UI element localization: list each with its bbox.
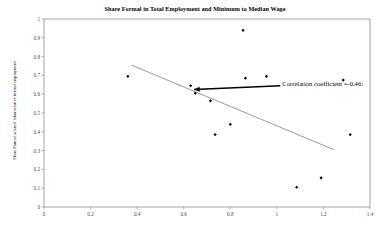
svg-text:0.1: 0.1 bbox=[34, 185, 41, 191]
svg-text:0.4: 0.4 bbox=[34, 129, 41, 135]
trendline bbox=[131, 65, 334, 150]
svg-text:0.4: 0.4 bbox=[134, 211, 141, 217]
svg-text:0.8: 0.8 bbox=[34, 54, 41, 60]
plot-area: 00.10.20.30.40.50.60.70.80.91 00.20.40.6… bbox=[0, 0, 390, 226]
x-axis-tick-labels: 00.20.40.60.811.21.4 bbox=[43, 207, 374, 217]
chart-container: Share Formal in Total Employment and Min… bbox=[0, 0, 390, 226]
svg-text:0.3: 0.3 bbox=[34, 148, 41, 154]
y-axis-tick-labels: 00.10.20.30.40.50.60.70.80.91 bbox=[34, 16, 44, 210]
svg-text:0.6: 0.6 bbox=[180, 211, 187, 217]
data-points bbox=[126, 29, 352, 189]
svg-text:1.4: 1.4 bbox=[367, 211, 374, 217]
svg-text:1: 1 bbox=[37, 16, 40, 22]
svg-text:0.2: 0.2 bbox=[34, 166, 41, 172]
svg-text:0.8: 0.8 bbox=[227, 211, 234, 217]
correlation-annotation-label: Correlation coefficient =-0.46: bbox=[282, 80, 363, 87]
svg-text:0: 0 bbox=[37, 204, 40, 210]
svg-text:0.5: 0.5 bbox=[34, 110, 41, 116]
svg-text:0.9: 0.9 bbox=[34, 35, 41, 41]
annotation-arrow bbox=[194, 86, 280, 92]
svg-text:0.2: 0.2 bbox=[87, 211, 94, 217]
svg-text:0.7: 0.7 bbox=[34, 72, 41, 78]
svg-text:0.6: 0.6 bbox=[34, 91, 41, 97]
svg-text:1.2: 1.2 bbox=[320, 211, 327, 217]
svg-text:1: 1 bbox=[276, 211, 279, 217]
svg-text:0: 0 bbox=[43, 211, 46, 217]
